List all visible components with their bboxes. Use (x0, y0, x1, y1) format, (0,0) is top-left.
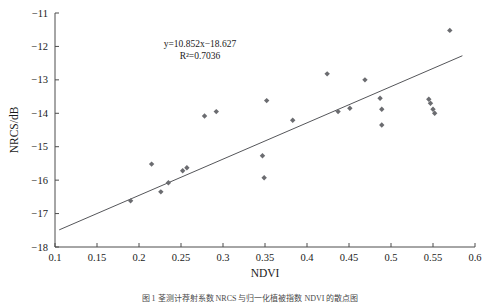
regression-equation-label: y=10.852x−18.627 (164, 39, 237, 49)
data-point (379, 122, 384, 127)
data-point (290, 118, 295, 123)
data-point (447, 28, 452, 33)
data-point (214, 109, 219, 114)
x-axis-tick-label: 0.25 (172, 252, 190, 263)
y-axis-title: NRCS/dB (8, 106, 20, 153)
data-point (324, 71, 329, 76)
x-axis-tick-label: 0.2 (132, 252, 145, 263)
data-point (260, 153, 265, 158)
x-axis-tick-label: 0.15 (88, 252, 106, 263)
data-point (149, 161, 154, 166)
data-point (128, 198, 133, 203)
x-axis-tick-label: 0.55 (424, 252, 442, 263)
y-axis-tick-label: −13 (32, 74, 48, 85)
data-point (377, 96, 382, 101)
x-axis-title: NDVI (251, 267, 280, 279)
data-point (184, 165, 189, 170)
x-axis-tick-label: 0.45 (340, 252, 358, 263)
scatter-plot-svg: 0.10.150.20.250.30.350.40.450.50.550.6−1… (0, 0, 500, 305)
data-point (166, 180, 171, 185)
x-axis-tick-label: 0.4 (300, 252, 314, 263)
data-point (264, 98, 269, 103)
data-point (362, 77, 367, 82)
data-point (379, 107, 384, 112)
y-axis-tick-label: −11 (32, 8, 48, 19)
x-axis-tick-label: 0.3 (216, 252, 229, 263)
x-axis-tick-label: 0.35 (256, 252, 274, 263)
r-squared-label: R²=0.7036 (180, 51, 221, 61)
data-point (158, 189, 163, 194)
y-axis-tick-label: −18 (32, 242, 48, 253)
data-point (261, 175, 266, 180)
x-axis-tick-label: 0.6 (468, 252, 481, 263)
figure-caption: 图 1 荃测计荐射系数 NRCS 与归一化植被指数 NDVI 的散点图 (142, 293, 359, 303)
y-axis-tick-label: −15 (32, 141, 48, 152)
x-axis-tick-label: 0.5 (384, 252, 397, 263)
scatter-figure: 0.10.150.20.250.30.350.40.450.50.550.6−1… (0, 0, 500, 305)
x-axis-tick-label: 0.1 (48, 252, 61, 263)
data-point (180, 168, 185, 173)
data-point (202, 113, 207, 118)
y-axis-tick-label: −14 (32, 108, 49, 119)
regression-line (59, 56, 462, 230)
y-axis-tick-label: −17 (32, 208, 48, 219)
data-point (347, 106, 352, 111)
plot-axes (55, 13, 475, 247)
y-axis-tick-label: −12 (32, 41, 48, 52)
y-axis-tick-label: −16 (32, 175, 48, 186)
